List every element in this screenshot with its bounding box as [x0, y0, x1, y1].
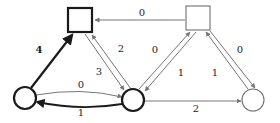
edge-weight-label-circle-bottom-left-to-circle-bottom-mid: 0 — [78, 80, 84, 90]
edge-weight-label-square-top-right-to-square-top-left: 0 — [139, 8, 145, 18]
edge-weight-label-square-top-right-to-circle-bottom-right: 0 — [237, 45, 243, 55]
edge-weight-label-square-top-left-to-circle-bottom-mid: 3 — [96, 67, 102, 77]
node-circle-bottom-mid[interactable] — [122, 89, 144, 111]
edge-weight-label-circle-bottom-mid-to-circle-bottom-right: 2 — [193, 104, 199, 114]
edge-circle-bottom-left-to-circle-bottom-mid — [36, 91, 122, 97]
node-square-top-left[interactable] — [68, 8, 92, 32]
graph-figure: 0 4 2 3 0 1 1 0 0 1 2 — [0, 0, 280, 123]
edge-square-top-right-to-circle-bottom-mid — [145, 32, 196, 91]
node-circle-bottom-right[interactable] — [242, 89, 264, 111]
edge-circle-bottom-mid-to-square-top-left — [92, 35, 131, 89]
node-circle-bottom-left[interactable] — [14, 87, 36, 109]
graph-canvas — [0, 0, 280, 123]
edge-circle-bottom-right-to-square-top-right — [206, 32, 248, 89]
edge-weight-label-circle-bottom-mid-to-square-top-left: 2 — [118, 44, 124, 54]
edge-weight-label-circle-bottom-mid-to-circle-bottom-left: 1 — [78, 108, 84, 118]
edge-square-top-right-to-circle-bottom-right — [210, 31, 255, 88]
edge-weight-label-circle-bottom-mid-to-square-top-right: 0 — [152, 45, 158, 55]
edge-weight-label-circle-bottom-right-to-square-top-right: 1 — [212, 68, 218, 78]
node-square-top-right[interactable] — [186, 6, 210, 30]
edge-weight-label-square-top-right-to-circle-bottom-mid: 1 — [178, 68, 184, 78]
edge-circle-bottom-left-to-square-top-left — [31, 35, 72, 88]
edge-weight-label-circle-bottom-left-to-square-top-left: 4 — [36, 45, 43, 55]
edge-circle-bottom-mid-to-square-top-right — [139, 32, 190, 89]
